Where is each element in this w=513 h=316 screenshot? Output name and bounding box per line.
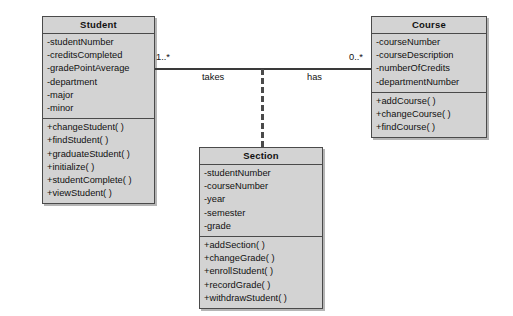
operation-item: +changeCourse( ) — [376, 108, 486, 121]
class-box-course[interactable]: Course -courseNumber -courseDescription … — [371, 16, 487, 138]
class-name-section: Section — [200, 148, 322, 165]
association-role-takes: takes — [202, 72, 224, 82]
class-operations-course: +addCourse( ) +changeCourse( ) +findCour… — [372, 93, 486, 138]
uml-class-diagram: Student -studentNumber -creditsCompleted… — [0, 0, 513, 316]
operation-item: +findStudent( ) — [47, 134, 154, 147]
operation-item: +recordGrade( ) — [204, 279, 322, 292]
attribute-item: -courseNumber — [204, 180, 322, 193]
attribute-item: -year — [204, 193, 322, 206]
operation-item: +viewStudent( ) — [47, 187, 154, 200]
class-operations-student: +changeStudent( ) +findStudent( ) +gradu… — [43, 119, 154, 203]
class-box-student[interactable]: Student -studentNumber -creditsCompleted… — [42, 16, 155, 204]
operation-item: +studentComplete( ) — [47, 174, 154, 187]
class-box-section[interactable]: Section -studentNumber -courseNumber -ye… — [199, 147, 323, 309]
attribute-item: -grade — [204, 220, 322, 233]
operation-item: +changeGrade( ) — [204, 252, 322, 265]
attribute-item: -courseDescription — [376, 49, 486, 62]
class-operations-section: +addSection( ) +changeGrade( ) +enrollSt… — [200, 237, 322, 308]
attribute-item: -creditsCompleted — [47, 49, 154, 62]
class-attributes-student: -studentNumber -creditsCompleted -gradeP… — [43, 34, 154, 119]
attribute-item: -minor — [47, 102, 154, 115]
operation-item: +graduateStudent( ) — [47, 148, 154, 161]
class-name-student: Student — [43, 17, 154, 34]
operation-item: +enrollStudent( ) — [204, 265, 322, 278]
operation-item: +withdrawStudent( ) — [204, 292, 322, 305]
association-class-connector — [261, 69, 264, 147]
operation-item: +addCourse( ) — [376, 95, 486, 108]
attribute-item: -major — [47, 89, 154, 102]
attribute-item: -department — [47, 76, 154, 89]
multiplicity-student-side: 1..* — [156, 52, 170, 62]
attribute-item: -studentNumber — [47, 36, 154, 49]
operation-item: +findCourse( ) — [376, 121, 486, 134]
attribute-item: -studentNumber — [204, 167, 322, 180]
operation-item: +addSection( ) — [204, 239, 322, 252]
operation-item: +changeStudent( ) — [47, 121, 154, 134]
attribute-item: -gradePointAverage — [47, 62, 154, 75]
class-attributes-section: -studentNumber -courseNumber -year -seme… — [200, 165, 322, 237]
class-attributes-course: -courseNumber -courseDescription -number… — [372, 34, 486, 93]
attribute-item: -numberOfCredits — [376, 62, 486, 75]
association-role-has: has — [307, 72, 322, 82]
operation-item: +initialize( ) — [47, 161, 154, 174]
class-name-course: Course — [372, 17, 486, 34]
attribute-item: -semester — [204, 207, 322, 220]
attribute-item: -departmentNumber — [376, 76, 486, 89]
multiplicity-course-side: 0..* — [349, 52, 363, 62]
attribute-item: -courseNumber — [376, 36, 486, 49]
